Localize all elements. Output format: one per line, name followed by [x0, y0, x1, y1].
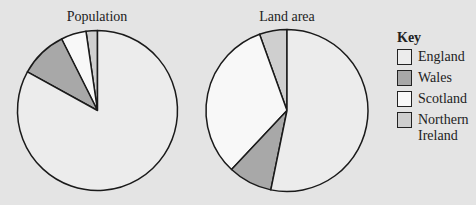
population-pie — [18, 31, 178, 191]
legend-swatch-wales — [397, 70, 412, 86]
land-area-pie — [206, 30, 368, 192]
legend-item-england: England — [397, 49, 467, 65]
population-chart-title: Population — [67, 9, 128, 24]
legend-label-wales: Wales — [418, 70, 452, 86]
legend-item-scotland: Scotland — [397, 91, 467, 107]
legend-label-england: England — [418, 49, 465, 65]
legend-swatch-england — [397, 49, 412, 65]
legend-swatch-northern-ireland — [397, 112, 412, 128]
legend-label-northern-ireland: Northern Ireland — [418, 112, 466, 144]
legend-item-wales: Wales — [397, 70, 467, 86]
legend-swatch-scotland — [397, 91, 412, 107]
legend-title: Key — [397, 30, 467, 46]
legend-label-scotland: Scotland — [418, 91, 467, 107]
legend-item-northern-ireland: Northern Ireland — [397, 112, 467, 144]
legend: Key England Wales Scotland Northern Irel… — [397, 30, 467, 149]
land-area-chart-title: Land area — [259, 9, 315, 24]
